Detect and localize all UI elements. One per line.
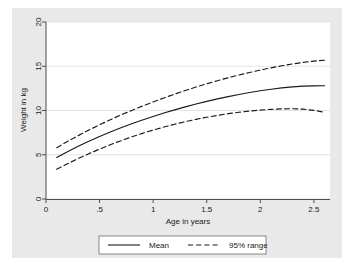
y-tick-label-20: 20 bbox=[34, 17, 43, 26]
y-tick-label-5: 5 bbox=[34, 152, 43, 157]
chart-legend: Mean 95% range bbox=[99, 236, 268, 254]
y-tick-label-10: 10 bbox=[34, 106, 43, 115]
x-tick-label-4: 2 bbox=[258, 205, 263, 214]
y-tick-label-0: 0 bbox=[34, 196, 43, 201]
x-axis-ticks: 0.511.522.5 bbox=[44, 199, 320, 214]
y-tick-label-15: 15 bbox=[34, 61, 43, 70]
weight-for-age-chart: 05101520 0.511.522.5 Weight in kg Age in… bbox=[0, 0, 354, 273]
x-tick-label-0: 0 bbox=[44, 205, 49, 214]
x-tick-label-5: 2.5 bbox=[308, 205, 320, 214]
x-tick-label-2: 1 bbox=[151, 205, 156, 214]
x-tick-label-1: .5 bbox=[96, 205, 103, 214]
x-tick-label-3: 1.5 bbox=[201, 205, 213, 214]
y-axis-title: Weight in kg bbox=[19, 88, 28, 132]
chart-screenshot: 05101520 0.511.522.5 Weight in kg Age in… bbox=[0, 0, 354, 273]
legend-label-range: 95% range bbox=[229, 241, 268, 250]
y-axis-ticks: 05101520 bbox=[34, 17, 46, 201]
x-axis-title: Age in years bbox=[166, 217, 210, 226]
legend-label-mean: Mean bbox=[149, 241, 169, 250]
